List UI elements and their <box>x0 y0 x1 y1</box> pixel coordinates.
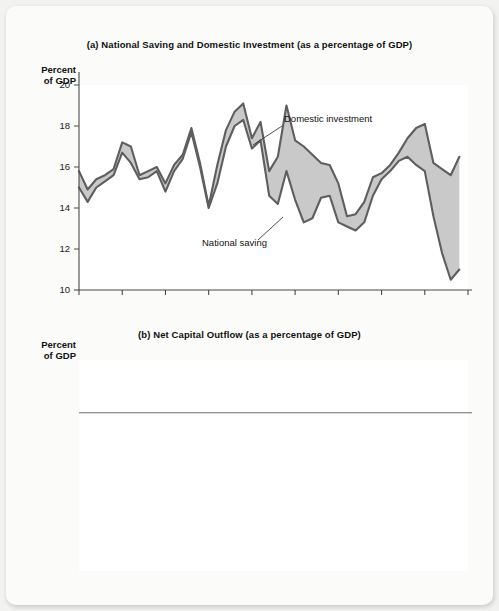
panel-a-y-tick-label: 14 <box>59 202 70 213</box>
chart-page: (a) National Saving and Domestic Investm… <box>6 6 493 605</box>
panel-a-y-tick-label: 10 <box>59 284 70 295</box>
panel-a-y-tick-label: 18 <box>59 120 70 131</box>
panel-a-y-tick-label: 16 <box>59 161 70 172</box>
panel-a-y-tick-label: 20 <box>59 79 70 90</box>
panel-b-chart <box>6 296 493 586</box>
panel-a-chart: 1012141618201960196519701975198019851990… <box>6 6 493 296</box>
panel-b-plot-area <box>79 360 468 571</box>
panel-a-y-tick-label: 12 <box>59 243 70 254</box>
annotation-domestic-investment: Domestic investment <box>284 113 373 124</box>
annotation-national-saving: National saving <box>202 237 267 248</box>
